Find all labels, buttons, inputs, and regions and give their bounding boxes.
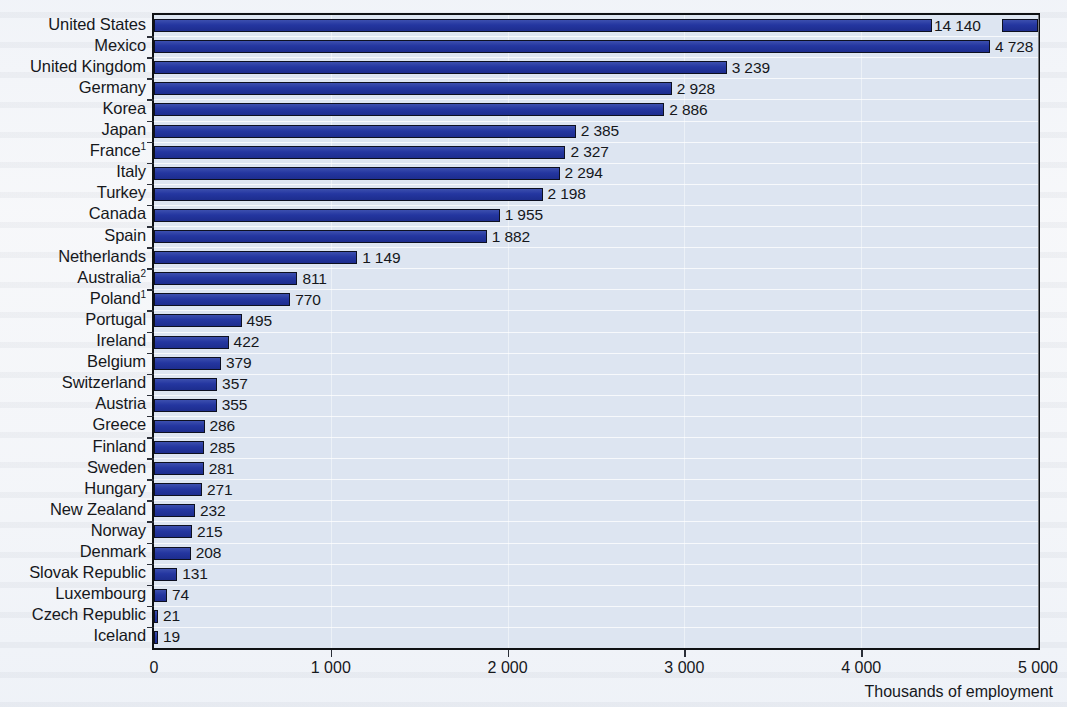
category-axis-tick [147, 268, 154, 270]
horizontal-gridline [154, 500, 1038, 501]
category-axis-tick [147, 226, 154, 228]
bar-value-label: 357 [222, 376, 248, 392]
bar [154, 209, 500, 222]
category-axis-tick [147, 121, 154, 123]
bar-value-label: 495 [247, 313, 273, 329]
horizontal-gridline [154, 437, 1038, 438]
bar [154, 441, 204, 454]
bar [154, 251, 357, 264]
bar-value-label: 1 955 [505, 207, 543, 223]
category-label: Austria [95, 395, 146, 412]
category-label: Spain [104, 227, 146, 244]
category-axis-tick [147, 332, 154, 334]
category-label: Portugal [85, 311, 146, 328]
bar [154, 462, 204, 475]
category-axis-tick [147, 247, 154, 249]
category-label: France1 [90, 142, 146, 159]
category-axis-tick [147, 543, 154, 545]
category-axis-tick [147, 205, 154, 207]
bar-value-label: 208 [196, 545, 222, 561]
horizontal-gridline [154, 627, 1038, 628]
horizontal-gridline [154, 78, 1038, 79]
horizontal-gridline [154, 353, 1038, 354]
horizontal-gridline [154, 205, 1038, 206]
category-label: Sweden [87, 459, 146, 476]
bar [154, 314, 242, 327]
bar [154, 188, 543, 201]
value-axis-tick-label: 4 000 [841, 660, 881, 676]
vertical-gridline [1038, 15, 1039, 648]
footnote-marker: 1 [141, 141, 146, 152]
category-label: Iceland [93, 627, 146, 644]
category-axis-tick [147, 78, 154, 80]
value-axis-tick-label: 3 000 [664, 660, 704, 676]
bar [154, 82, 672, 95]
horizontal-gridline [154, 395, 1038, 396]
category-axis-tick [147, 606, 154, 608]
category-label: Ireland [96, 332, 146, 349]
bar [154, 483, 202, 496]
horizontal-gridline [154, 458, 1038, 459]
bar [154, 631, 158, 644]
category-label: United States [48, 16, 146, 33]
value-axis-tick-label: 0 [150, 660, 159, 676]
horizontal-gridline [154, 36, 1038, 37]
category-axis-tick [147, 57, 154, 59]
bar [154, 125, 576, 138]
horizontal-gridline [154, 564, 1038, 565]
horizontal-gridline [154, 606, 1038, 607]
bar [154, 230, 487, 243]
category-label: Germany [79, 79, 146, 96]
bar-value-label: 2 294 [565, 165, 603, 181]
bar-value-label: 4 728 [995, 39, 1033, 55]
value-axis-tick [331, 650, 333, 657]
category-label: Czech Republic [32, 606, 146, 623]
bar [154, 525, 192, 538]
category-label: Finland [93, 438, 146, 455]
horizontal-gridline [154, 247, 1038, 248]
footnote-marker: 2 [141, 267, 146, 278]
category-label: Switzerland [62, 374, 146, 391]
bar-value-label: 2 198 [548, 186, 586, 202]
bar [154, 40, 990, 53]
category-label: Canada [89, 205, 146, 222]
bar-value-label: 3 239 [732, 60, 770, 76]
category-axis-tick [147, 437, 154, 439]
category-label: Greece [92, 416, 146, 433]
bar [154, 504, 195, 517]
horizontal-bar-chart: United StatesMexicoUnited KingdomGermany… [0, 0, 1067, 707]
category-axis-tick [147, 458, 154, 460]
value-axis: 01 0002 0003 0004 0005 000 [152, 650, 1040, 680]
horizontal-gridline [154, 184, 1038, 185]
category-label: Luxembourg [55, 585, 146, 602]
category-axis-tick [147, 184, 154, 186]
horizontal-gridline [154, 310, 1038, 311]
bar [154, 167, 560, 180]
horizontal-gridline [154, 416, 1038, 417]
category-label: Korea [102, 100, 146, 117]
bar-value-label: 74 [172, 587, 189, 603]
bar-value-label: 1 149 [362, 250, 400, 266]
category-label: Mexico [94, 37, 146, 54]
horizontal-gridline [154, 268, 1038, 269]
category-axis-tick [147, 36, 154, 38]
category-axis-tick [147, 142, 154, 144]
bar-value-label: 2 385 [581, 123, 619, 139]
plot-area: 14 1404 7283 2392 9282 8862 3852 3272 29… [152, 13, 1040, 650]
bar [154, 568, 177, 581]
horizontal-gridline [154, 479, 1038, 480]
category-axis-tick [147, 395, 154, 397]
bar [154, 547, 191, 560]
bar [154, 336, 229, 349]
bar [154, 420, 205, 433]
category-axis-tick [147, 99, 154, 101]
category-axis-tick [147, 500, 154, 502]
bar-value-label: 281 [209, 461, 235, 477]
category-axis-tick [147, 564, 154, 566]
bar [154, 293, 290, 306]
bar-value-label: 2 928 [677, 81, 715, 97]
bar-value-label: 355 [222, 397, 248, 413]
value-axis-tick [684, 650, 686, 657]
bar-value-label: 14 140 [934, 18, 981, 34]
category-label: Australia2 [77, 269, 146, 286]
